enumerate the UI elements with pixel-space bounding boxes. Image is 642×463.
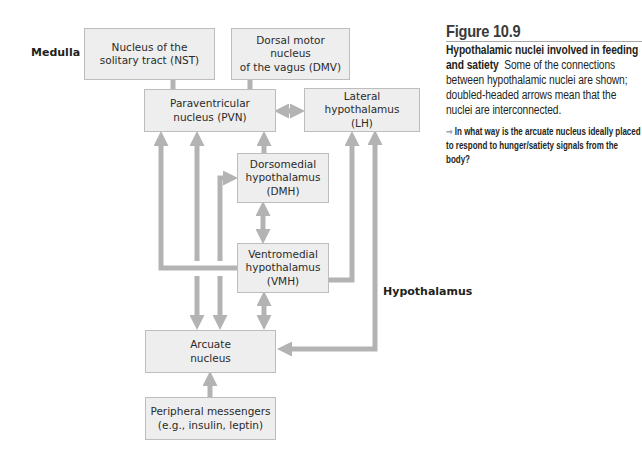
- node-nst-line2: solitary tract (NST): [100, 54, 199, 68]
- node-arcuate: Arcuatenucleus: [145, 330, 276, 373]
- node-dmh: Dorsomedialhypothalamus(DMH): [237, 153, 329, 203]
- arrow-right-icon: ➞: [446, 126, 452, 137]
- figure-caption: Figure 10.9 Hypothalamic nuclei involved…: [446, 22, 642, 167]
- node-nst: Nucleus of thesolitary tract (NST): [84, 28, 215, 80]
- node-arcuate-line2: nucleus: [190, 352, 231, 366]
- region-label-medulla: Medulla: [31, 46, 80, 59]
- node-lh: Lateral hypothalamus(LH): [304, 88, 420, 132]
- node-nst-line1: Nucleus of the: [100, 41, 199, 55]
- node-arcuate-line1: Arcuate: [190, 338, 231, 352]
- node-lh-line1: Lateral hypothalamus: [309, 90, 415, 117]
- node-lh-line2: (LH): [309, 117, 415, 131]
- node-pvn: Paraventricularnucleus (PVN): [144, 89, 276, 132]
- node-peripheral-line2: (e.g., insulin, leptin): [150, 419, 270, 433]
- node-dmv: Dorsal motor nucleusof the vagus (DMV): [231, 28, 350, 80]
- node-dmv-line1: Dorsal motor nucleus: [236, 34, 345, 61]
- node-pvn-line1: Paraventricular: [170, 97, 250, 111]
- node-dmh-line2: hypothalamus: [246, 171, 321, 185]
- figure-question-text: In what way is the arcuate nucleus ideal…: [446, 126, 641, 165]
- region-label-hypothalamus: Hypothalamus: [383, 285, 472, 298]
- node-vmh: Ventromedialhypothalamus(VMH): [237, 243, 329, 293]
- node-dmh-line1: Dorsomedial: [246, 158, 321, 172]
- node-peripheral-messengers: Peripheral messengers(e.g., insulin, lep…: [145, 397, 276, 440]
- node-vmh-line1: Ventromedial: [246, 248, 321, 262]
- figure-number: Figure 10.9: [446, 22, 642, 42]
- node-peripheral-line1: Peripheral messengers: [150, 405, 270, 419]
- node-vmh-line3: (VMH): [246, 275, 321, 289]
- node-vmh-line2: hypothalamus: [246, 261, 321, 275]
- node-pvn-line2: nucleus (PVN): [170, 111, 250, 125]
- figure-title: Hypothalamic nuclei involved in feeding …: [446, 43, 642, 118]
- arrow-vmh-to-lh: [329, 138, 352, 280]
- arrow-arcuate-to-dmh: [220, 178, 231, 261]
- figure-question: ➞In what way is the arcuate nucleus idea…: [446, 125, 642, 167]
- node-dmv-line2: of the vagus (DMV): [236, 61, 345, 75]
- node-dmh-line3: (DMH): [246, 185, 321, 199]
